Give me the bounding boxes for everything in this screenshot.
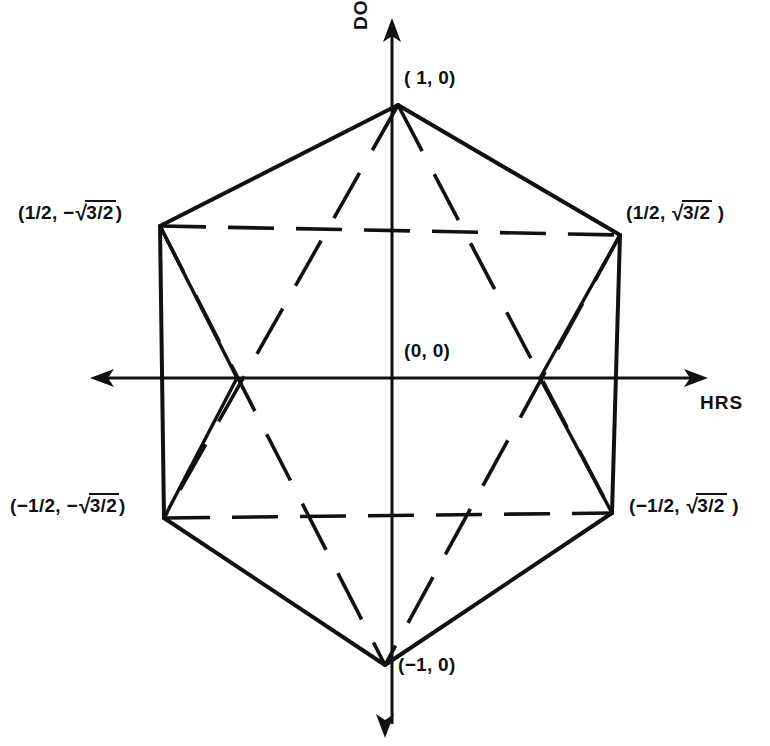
radical-lower-right: √3/2 — [686, 493, 727, 516]
chord-lowleft-up — [164, 378, 237, 518]
dashed-top-to-lowleft — [164, 105, 398, 518]
hrs-axis-label: HRS — [700, 393, 743, 412]
label-upper-right-suffix: ) — [712, 202, 724, 223]
hexagon-outline-group — [160, 105, 620, 665]
vertex-label-lower-right: (−1/2, √3/2 ) — [629, 493, 739, 516]
dashed-chords-group — [160, 226, 620, 518]
hex-edge-upleft-to-top — [160, 105, 398, 226]
label-upper-right-prefix: (1/2, — [626, 202, 671, 223]
origin-label: (0, 0) — [404, 341, 450, 360]
dashed-lowleft-to-lowright — [164, 513, 612, 518]
radical-lower-left: √3/2 — [78, 493, 119, 516]
vertex-label-lower-left: (−1/2, −√3/2) — [10, 493, 126, 516]
label-lower-right-prefix: (−1/2, — [629, 495, 686, 516]
vertex-label-upper-left: (1/2, −√3/2) — [18, 200, 122, 223]
hex-edge-bottom-to-lowleft — [164, 518, 385, 665]
label-lower-left-sign: − — [67, 495, 78, 516]
vertex-label-bottom: (−1, 0) — [398, 655, 456, 674]
hex-edge-upright-to-lowright — [612, 235, 620, 513]
dashed-upleft-to-upright — [160, 226, 620, 235]
label-upper-left-prefix: (1/2, — [18, 202, 63, 223]
hex-edge-top-to-upright — [398, 105, 620, 235]
label-upper-left-suffix: ) — [116, 202, 123, 223]
diagram-canvas — [0, 0, 770, 746]
hex-edge-lowleft-to-upleft — [160, 226, 164, 518]
label-lower-left-suffix: ) — [119, 495, 126, 516]
hex-edge-lowright-to-bottom — [385, 513, 612, 665]
solid-chords-group — [160, 226, 620, 518]
label-upper-left-radicand: 3/2 — [85, 200, 115, 222]
hexagon-diagram-figure: DOSE HRS ( 1, 0) (0, 0) (−1, 0) (1/2, −√… — [0, 0, 770, 746]
vertical-axis-arrow-down — [376, 714, 394, 738]
vertex-label-top: ( 1, 0) — [404, 68, 456, 87]
label-lower-right-suffix: ) — [727, 495, 739, 516]
label-upper-right-radicand: 3/2 — [682, 200, 712, 222]
label-upper-left-sign: − — [63, 202, 74, 223]
radical-upper-left: √3/2 — [75, 200, 116, 223]
dose-axis-label: DOSE — [351, 0, 370, 30]
radical-upper-right: √3/2 — [671, 200, 712, 223]
label-lower-left-radicand: 3/2 — [89, 493, 119, 515]
vertex-label-upper-right: (1/2, √3/2 ) — [626, 200, 724, 223]
label-lower-right-radicand: 3/2 — [696, 493, 726, 515]
label-lower-left-prefix: (−1/2, — [10, 495, 67, 516]
